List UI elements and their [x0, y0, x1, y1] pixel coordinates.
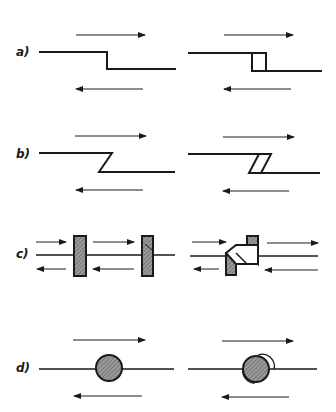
hatched-block [142, 236, 153, 276]
hatched-block [74, 236, 86, 276]
row-a-right [188, 35, 322, 89]
row-a-left [39, 35, 176, 89]
row-b-left [39, 136, 175, 190]
hatched-circle [96, 355, 122, 381]
hatched-circle [243, 356, 269, 382]
row-d-right [188, 341, 317, 397]
row-c-left [36, 236, 175, 276]
row-b-right [188, 137, 320, 191]
row-c-right [190, 236, 318, 275]
diagram-canvas [0, 0, 336, 412]
row-d-left [39, 340, 174, 396]
